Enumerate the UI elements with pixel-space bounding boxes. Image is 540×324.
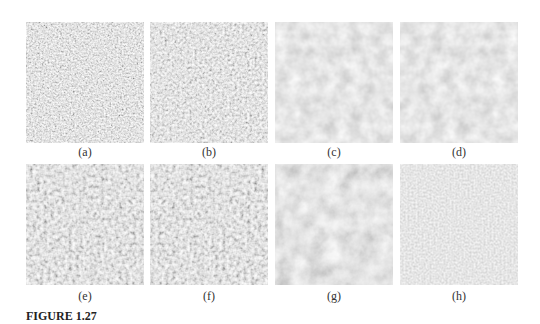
panel-h-image <box>400 164 518 285</box>
panel-c-caption: (c) <box>275 145 393 160</box>
panel-a-image <box>26 22 144 143</box>
panel-d-caption: (d) <box>400 145 518 160</box>
panel-c-image <box>275 22 393 143</box>
panel-b-caption: (b) <box>150 145 268 160</box>
panel-f-caption: (f) <box>150 289 268 304</box>
panel-g-caption: (g) <box>275 289 393 304</box>
figure-label: FIGURE 1.27 <box>26 309 97 324</box>
panel-h-caption: (h) <box>400 289 518 304</box>
panel-d-image <box>400 22 518 143</box>
panel-e-caption: (e) <box>26 289 144 304</box>
panel-b-image <box>150 22 268 143</box>
panel-f-image <box>150 164 268 285</box>
panel-a-caption: (a) <box>26 145 144 160</box>
panel-g-image <box>275 164 393 285</box>
panel-e-image <box>26 164 144 285</box>
